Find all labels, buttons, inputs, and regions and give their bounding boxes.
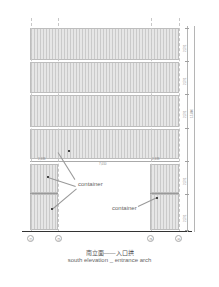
tier5-dimension: 2,591	[183, 214, 187, 222]
left-pier-container-lower	[30, 194, 58, 230]
container-label-left: container	[78, 181, 103, 187]
tier1-dimension: 2,591	[183, 44, 187, 52]
tier2-dimension: 2,591	[183, 77, 187, 85]
upper-container-tier-1	[30, 28, 179, 60]
axis-marker-3: ③	[147, 235, 154, 242]
grid-line-4	[179, 18, 180, 232]
leader-dot	[47, 176, 49, 178]
span-dimension: 7,010	[99, 162, 107, 166]
upper-container-tier-4	[30, 129, 179, 159]
dim-tick	[185, 94, 189, 95]
leader-dot	[156, 197, 158, 199]
dim-tick	[185, 230, 189, 231]
dim-tick	[185, 194, 189, 195]
leader-dot	[51, 208, 53, 210]
axis-marker-2: ②	[55, 235, 62, 242]
tier-dimension-line	[187, 26, 188, 232]
ground-line	[22, 231, 192, 232]
leader-dot	[68, 150, 70, 152]
axis-marker-4: ④	[175, 235, 182, 242]
dim-tick	[185, 128, 189, 129]
dim-tick	[185, 161, 189, 162]
right-pier-container-upper	[150, 164, 179, 193]
drawing-title-chinese: 南立面——入口拱	[0, 248, 219, 257]
axis-marker-1: ①	[27, 235, 34, 242]
grid-line-2	[58, 18, 59, 232]
right-pier-dimension: 2,438	[152, 157, 160, 161]
upper-container-tier-3	[30, 95, 179, 127]
upper-container-tier-2	[30, 62, 179, 93]
dim-tick	[185, 61, 189, 62]
tier4-dimension: 2,591	[183, 177, 187, 185]
total-dimension-line	[194, 26, 195, 232]
drawing-title-english: south elevation _ entrance arch	[0, 257, 219, 263]
dim-tick	[185, 28, 189, 29]
tier3-dimension: 2,591	[183, 110, 187, 118]
container-label-right: container	[112, 205, 137, 211]
left-pier-dimension: 2,438	[38, 157, 46, 161]
grid-line-1	[31, 18, 32, 232]
total-height-dimension: 15,840	[190, 109, 194, 118]
